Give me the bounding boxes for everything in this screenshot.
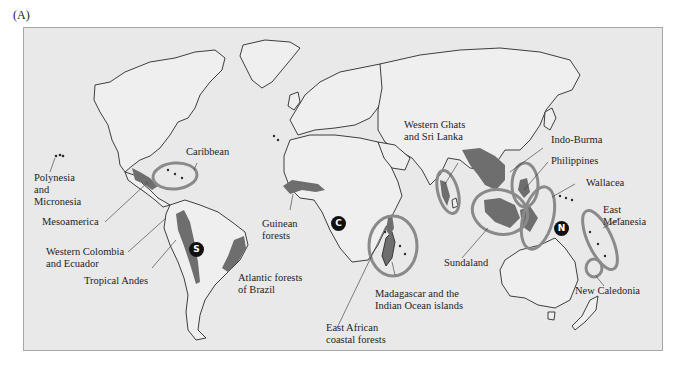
label-new-caledonia: New Caledonia [575, 285, 640, 297]
label-madagascar: Madagascar and the Indian Ocean islands [375, 288, 463, 312]
label-wallacea: Wallacea [586, 177, 624, 189]
label-atlantic-forests: Atlantic forests of Brazil [238, 272, 302, 296]
label-caribbean: Caribbean [186, 146, 229, 158]
label-polynesia: Polynesia and Micronesia [34, 172, 81, 208]
madagascar-landmass [382, 232, 395, 266]
world-map [0, 0, 688, 369]
south-america-landmass [164, 200, 248, 340]
label-east-african: East African coastal forests [326, 322, 386, 346]
japan-landmass [544, 108, 556, 130]
philippines-hotspot [518, 178, 530, 198]
sundaland-hotspot [484, 198, 520, 228]
marker-n: N [554, 221, 569, 236]
label-tropical-andes: Tropical Andes [84, 275, 148, 287]
label-philippines: Philippines [551, 155, 598, 167]
australia-landmass [500, 238, 578, 308]
marker-c: C [331, 216, 346, 231]
label-western-ghats: Western Ghats and Sri Lanka [404, 119, 465, 143]
label-western-colombia: Western Colombia and Ecuador [46, 246, 124, 270]
marker-s: S [189, 242, 204, 257]
greenland-landmass [240, 40, 300, 88]
caribbean-ring [152, 161, 198, 191]
label-sundaland: Sundaland [444, 257, 488, 269]
label-mesoamerica: Mesoamerica [42, 216, 99, 228]
new-caledonia-ring [586, 259, 602, 277]
label-indo-burma: Indo-Burma [551, 134, 602, 146]
label-east-melanesia: East Melanesia [603, 204, 646, 228]
new-zealand-landmass [572, 296, 598, 330]
tasmania-landmass [548, 312, 555, 320]
label-guinean: Guinean forests [262, 218, 298, 242]
